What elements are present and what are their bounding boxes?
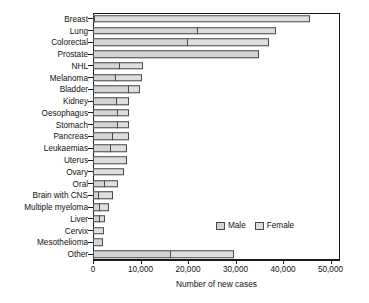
bar-segment-male — [93, 62, 120, 70]
bar-segment-male — [93, 250, 171, 258]
bar-segment-male — [93, 27, 198, 35]
x-axis-line — [93, 260, 340, 261]
stacked-bar — [93, 62, 143, 70]
x-axis-tick — [236, 260, 237, 264]
legend-item-female: Female — [255, 221, 294, 230]
x-axis-tick-label: 10,000 — [128, 265, 153, 275]
category-label: Ovary — [66, 167, 88, 176]
category-label: Breast — [64, 14, 88, 23]
category-label: NHL — [72, 61, 88, 70]
stacked-bar — [93, 74, 142, 82]
legend-label-male: Male — [228, 221, 246, 230]
category-label: Mesothelioma — [37, 238, 88, 247]
bar-row: Other — [0, 248, 369, 260]
stacked-bar — [93, 121, 129, 129]
bar-segment-male — [93, 74, 116, 82]
bar-segment-female — [110, 145, 127, 153]
x-axis-tick — [93, 260, 94, 264]
bar-row: Liver — [0, 213, 369, 225]
category-label: Pancreas — [53, 132, 88, 141]
bar-row: Brain with CNS — [0, 189, 369, 201]
bar-row: Stomach — [0, 119, 369, 131]
x-axis-tick — [283, 260, 284, 264]
stacked-bar — [93, 27, 276, 35]
x-axis-tick-label: 0 — [91, 265, 96, 275]
bar-row: Oesophagus — [0, 107, 369, 119]
bar-row: Uterus — [0, 154, 369, 166]
bar-row: Pancreas — [0, 131, 369, 143]
bar-row: Leukaemias — [0, 142, 369, 154]
bar-row: Lung — [0, 25, 369, 37]
stacked-bar — [93, 250, 234, 258]
stacked-bar — [93, 133, 129, 141]
chart-legend: Male Female — [216, 221, 294, 230]
bar-row: Kidney — [0, 95, 369, 107]
bar-row: NHL — [0, 60, 369, 72]
stacked-bar — [93, 203, 109, 211]
x-axis-tick-label: 50,000 — [318, 265, 343, 275]
stacked-bar — [93, 50, 259, 58]
stacked-bar — [93, 156, 127, 164]
stacked-bar — [93, 145, 127, 153]
category-label: Lung — [70, 26, 88, 35]
bar-segment-female — [170, 250, 234, 258]
x-axis-tick-label: 40,000 — [270, 265, 295, 275]
bar-row: Cervix — [0, 225, 369, 237]
bar-row: Bladder — [0, 84, 369, 96]
bar-segment-female — [117, 109, 129, 117]
category-label: Multiple myeloma — [24, 203, 88, 212]
bar-segment-female — [187, 39, 269, 47]
stacked-bar — [93, 192, 113, 200]
legend-label-female: Female — [267, 221, 294, 230]
bar-segment-female — [117, 121, 129, 129]
bar-segment-female — [104, 180, 117, 188]
category-label: Oesophagus — [42, 108, 88, 117]
x-axis-tick-label: 30,000 — [223, 265, 248, 275]
x-axis-tick-label: 20,000 — [175, 265, 200, 275]
bar-segment-female — [98, 192, 113, 200]
bar-segment-female — [93, 227, 104, 235]
bar-row: Melanoma — [0, 72, 369, 84]
bar-segment-female — [94, 15, 310, 23]
bar-segment-female — [128, 86, 140, 94]
bar-segment-female — [93, 168, 124, 176]
stacked-bar — [93, 168, 124, 176]
bar-segment-female — [197, 27, 276, 35]
bar-segment-male — [93, 121, 118, 129]
bar-row: Oral — [0, 178, 369, 190]
bar-rows-container: BreastLungColorectalProstateNHLMelanomaB… — [0, 13, 369, 260]
bar-segment-female — [99, 203, 109, 211]
stacked-bar — [93, 227, 104, 235]
bar-row: Breast — [0, 13, 369, 25]
category-label: Colorectal — [51, 38, 88, 47]
category-label: Melanoma — [50, 73, 88, 82]
x-axis-tick — [331, 260, 332, 264]
bar-row: Multiple myeloma — [0, 201, 369, 213]
bar-segment-female — [119, 62, 143, 70]
stacked-bar — [93, 97, 129, 105]
bar-segment-male — [93, 239, 103, 247]
category-label: Cervix — [65, 226, 88, 235]
category-label: Leukaemias — [44, 144, 88, 153]
stacked-bar — [93, 86, 140, 94]
stacked-bar — [93, 109, 129, 117]
category-label: Liver — [70, 214, 88, 223]
category-label: Stomach — [56, 120, 88, 129]
stacked-bar — [93, 239, 103, 247]
bar-segment-female — [115, 74, 142, 82]
bar-segment-female — [99, 215, 105, 223]
stacked-bar — [93, 15, 310, 23]
cancer-incidence-bar-chart: BreastLungColorectalProstateNHLMelanomaB… — [0, 0, 369, 303]
legend-swatch-male-icon — [216, 222, 225, 230]
bar-segment-male — [93, 133, 113, 141]
stacked-bar — [93, 39, 269, 47]
bar-row: Mesothelioma — [0, 236, 369, 248]
bar-row: Prostate — [0, 48, 369, 60]
category-label: Prostate — [58, 50, 89, 59]
category-label: Oral — [73, 179, 88, 188]
legend-swatch-female-icon — [255, 222, 264, 230]
bar-segment-male — [93, 50, 259, 58]
category-label: Kidney — [63, 97, 88, 106]
bar-segment-male — [93, 39, 188, 47]
category-label: Other — [68, 250, 88, 259]
